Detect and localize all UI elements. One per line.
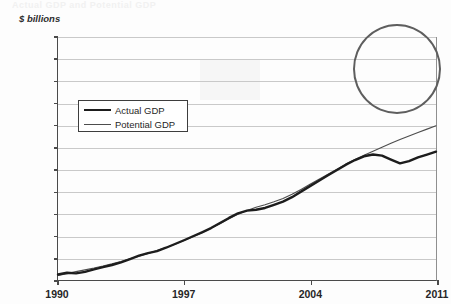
x-axis-tick-label: 2011 [426,288,449,300]
chart-legend: Actual GDP Potential GDP [78,100,188,132]
y-axis-units-label: $ billions [19,13,60,24]
legend-label-actual-gdp: Actual GDP [115,105,165,116]
cropped-title-remnant: Actual GDP and Potential GDP [12,0,202,8]
legend-swatch-actual-gdp [84,109,111,111]
legend-label-potential-gdp: Potential GDP [115,119,175,130]
x-axis-tick-label: 1997 [172,288,195,300]
legend-swatch-potential-gdp [84,124,111,125]
chart-screenshot: Actual GDP and Potential GDP $ billions … [0,0,451,304]
x-tick-mark [184,280,185,285]
plot-area [57,37,437,281]
x-axis-tick-label: 1990 [45,288,68,300]
legend-item-actual-gdp: Actual GDP [79,103,187,117]
line-potential-gdp [58,126,436,276]
x-tick-mark [311,280,312,285]
series-lines [58,37,436,280]
line-actual-gdp [58,152,436,275]
x-axis-tick-label: 2004 [299,288,322,300]
x-tick-mark [57,280,58,285]
x-tick-mark [437,280,438,285]
legend-item-potential-gdp: Potential GDP [79,117,187,131]
